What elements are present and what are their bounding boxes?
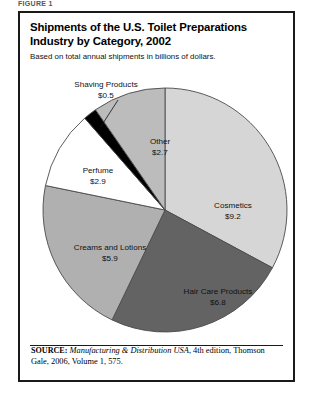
- slice-label-value: $6.8: [210, 298, 226, 307]
- pie-chart-svg: Cosmetics$9.2Hair Care Products$6.8Cream…: [20, 13, 293, 380]
- figure-label: FIGURE 1: [18, 0, 53, 7]
- source-keyword: SOURCE:: [31, 346, 67, 355]
- slice-label-name: Creams and Lotions: [74, 243, 146, 252]
- pie-chart: Cosmetics$9.2Hair Care Products$6.8Cream…: [20, 13, 293, 380]
- slice-label-value: $9.2: [225, 212, 241, 221]
- slice-label-name: Other: [150, 137, 171, 146]
- slice-label-value: $2.7: [152, 148, 168, 157]
- slice-label-value: $2.9: [90, 177, 106, 186]
- slice-label-name: Perfume: [83, 166, 114, 175]
- source-note: SOURCE: Manufacturing & Distribution USA…: [31, 345, 283, 368]
- slice-label-value: $5.9: [102, 254, 118, 263]
- slice-label-name: Cosmetics: [214, 201, 252, 210]
- slice-label-name: Shaving Products: [74, 80, 137, 89]
- figure-frame: Shipments of the U.S. Toilet Preparation…: [18, 11, 295, 382]
- source-title: Manufacturing & Distribution USA: [70, 346, 189, 355]
- slice-label-name: Hair Care Products: [184, 287, 253, 296]
- slice-label-value: $0.5: [98, 91, 114, 100]
